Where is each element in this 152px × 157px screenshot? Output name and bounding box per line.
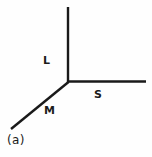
figure-caption: (a) xyxy=(7,134,25,146)
branch-label-short: S xyxy=(94,89,102,100)
branch-label-long: L xyxy=(43,55,50,66)
figure-panel: L S M (a) xyxy=(0,0,152,157)
branch-label-medium: M xyxy=(44,105,55,116)
branch-line-medium xyxy=(11,82,69,129)
